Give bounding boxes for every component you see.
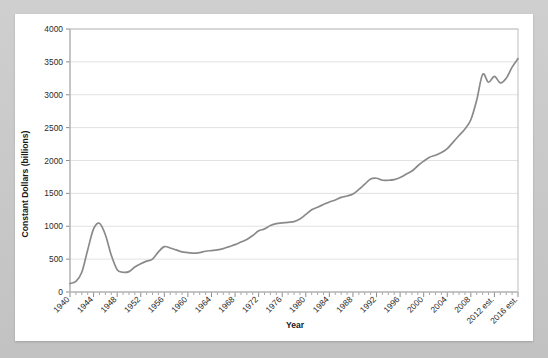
- x-axis-title: Year: [286, 320, 305, 330]
- y-tick-label: 3500: [44, 57, 63, 67]
- y-tick-label: 1500: [44, 188, 63, 198]
- y-tick-label: 2500: [44, 123, 63, 133]
- chart-panel: 05001000150020002500300035004000 1940194…: [15, 14, 533, 341]
- y-tick-label: 1000: [44, 221, 63, 231]
- y-axis-title: Constant Dollars (billions): [20, 130, 30, 237]
- chart-svg: 05001000150020002500300035004000 1940194…: [15, 14, 533, 341]
- line-chart: 05001000150020002500300035004000 1940194…: [15, 14, 533, 341]
- y-tick-label: 2000: [44, 156, 63, 166]
- y-tick-label: 3000: [44, 90, 63, 100]
- y-tick-label: 500: [49, 254, 63, 264]
- y-tick-label: 4000: [44, 24, 63, 34]
